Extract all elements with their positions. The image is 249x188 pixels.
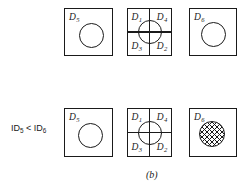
region-circle-outline xyxy=(78,123,103,148)
figure-canvas: D5 D1 D4 D3 D2 D6 ID5 < ID6 D5 D1 D4 D3 … xyxy=(0,0,249,188)
quadrant-label-d2: D2 xyxy=(157,42,167,52)
region-circle-cross-hatched xyxy=(199,121,225,147)
inequality-rhs: ID6 xyxy=(34,123,47,133)
inequality-lhs: ID5 xyxy=(11,123,24,133)
quadtree-circle-outline xyxy=(138,20,162,44)
quadtree-cell-bottom: D1 D4 D3 D2 xyxy=(127,108,172,157)
region-circle-outline xyxy=(79,23,104,48)
region-label-d5: D5 xyxy=(69,113,79,123)
region-label-d6: D6 xyxy=(194,13,204,23)
inequality-expression: ID5 < ID6 xyxy=(11,124,46,133)
region-label-d6: D6 xyxy=(194,113,204,123)
quadrant-label-d3: D3 xyxy=(132,42,142,52)
quadtree-cell-top: D1 D4 D3 D2 xyxy=(127,8,172,56)
figure-caption: (b) xyxy=(146,170,158,180)
quadrant-label-d1: D1 xyxy=(132,13,142,23)
region-cell-d5-top: D5 xyxy=(64,8,113,56)
quadrant-label-d4: D4 xyxy=(157,13,167,23)
region-cell-d5-bottom: D5 xyxy=(64,108,113,157)
quadtree-circle-outline xyxy=(138,121,162,145)
quadrant-label-d1: D1 xyxy=(132,113,142,123)
region-label-d5: D5 xyxy=(69,13,79,23)
quadrant-label-d3: D3 xyxy=(132,143,142,153)
region-cell-d6-top: D6 xyxy=(189,8,237,56)
quadrant-label-d2: D2 xyxy=(157,143,167,153)
region-circle-outline xyxy=(201,22,226,47)
inequality-operator: < xyxy=(26,123,31,133)
region-cell-d6-bottom: D6 xyxy=(189,108,237,157)
quadrant-label-d4: D4 xyxy=(157,113,167,123)
